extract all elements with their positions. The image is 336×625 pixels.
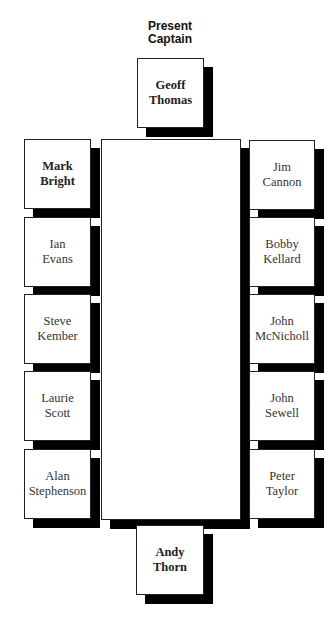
seat-left-4: LaurieScott [24,371,91,441]
seat-name-line: Bright [40,174,75,189]
table [101,139,241,520]
seat-name-line: Mark [40,159,75,174]
seat-name-line: Bobby [263,237,300,252]
seat-right-4: JohnSewell [249,371,315,441]
seat-left-2: IanEvans [24,217,91,287]
seat-name-line: Laurie [41,391,74,406]
seat-name-line: Geoff [149,78,192,93]
seat-head: GeoffThomas [137,58,204,128]
seat-name-line: Steve [37,314,77,329]
seat-name-line: Sewell [265,406,299,421]
seat-name-line: Thorn [153,560,187,575]
seat-name-line: John [255,314,309,329]
seat-name-line: Andy [153,545,187,560]
seat-name-line: Peter [266,469,298,484]
seat-name-line: Alan [29,469,87,484]
seat-name-line: Stephenson [29,484,87,499]
seat-left-1: MarkBright [24,139,91,209]
seat-name-line: Jim [263,160,302,175]
seat-right-2: BobbyKellard [249,217,315,287]
seat-name-line: Ian [42,237,73,252]
seat-name-line: Taylor [266,484,298,499]
seat-name-line: Scott [41,406,74,421]
seat-foot: AndyThorn [136,525,204,595]
seat-name-line: Thomas [149,93,192,108]
seat-name-line: Evans [42,252,73,267]
seat-left-3: SteveKember [24,294,91,364]
seat-right-1: JimCannon [249,140,315,210]
seat-name-line: Kellard [263,252,300,267]
seat-name-line: McNicholl [255,329,309,344]
seat-right-3: JohnMcNicholl [249,294,315,364]
seat-name-line: Cannon [263,175,302,190]
present-captain-heading: Present Captain [120,20,220,46]
seat-name-line: Kember [37,329,77,344]
seat-name-line: John [265,391,299,406]
seat-left-5: AlanStephenson [24,449,91,519]
heading-line-2: Captain [120,33,220,46]
seat-right-5: PeterTaylor [249,449,315,519]
